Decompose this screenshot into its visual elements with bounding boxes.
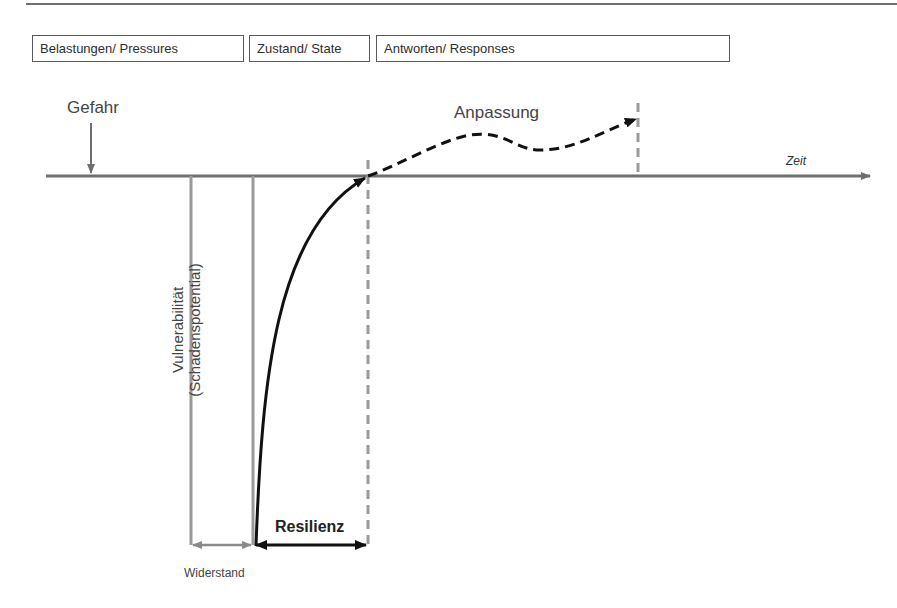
- vulnerability-label-line2: (Schadenspotential): [186, 263, 203, 396]
- recovery-curve: [256, 178, 365, 546]
- adaptation-curve: [368, 119, 636, 176]
- vulnerability-label-line1: Vulnerabilität: [169, 263, 186, 396]
- adaptation-label: Anpassung: [454, 103, 539, 123]
- diagram-canvas: [0, 0, 897, 608]
- resilience-label: Resilienz: [275, 518, 344, 536]
- hazard-label: Gefahr: [67, 98, 119, 118]
- resistance-label: Widerstand: [184, 566, 245, 580]
- time-axis-label: Zeit: [786, 154, 806, 168]
